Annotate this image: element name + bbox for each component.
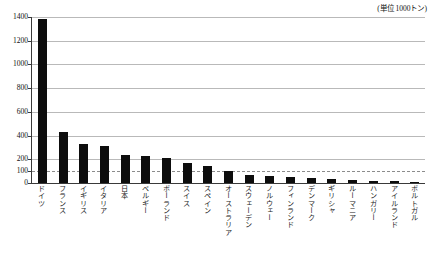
x-axis-label-slot: イタリア [93,185,114,251]
x-axis-label: 日本 [121,185,129,200]
x-axis-label-slot: ドイツ [31,185,52,251]
bar [265,176,274,183]
x-axis-label: スウェーデン [245,185,253,229]
x-axis-label-slot: スペイン [197,185,218,251]
x-axis-label: イタリア [100,185,108,214]
x-axis-label: イギリス [79,185,87,214]
x-axis-label-slot: アイルランド [383,185,404,251]
x-axis-label: デンマーク [307,185,315,222]
bar [141,156,150,183]
y-axis-tick-label: 1400 [13,13,28,21]
unit-caption: (単位 1000トン) [377,2,427,13]
y-axis-tick-label: 400 [17,132,28,140]
x-axis-label: ポルトガル [411,185,419,222]
x-axis-label-slot: ポーランド [155,185,176,251]
bar [162,158,171,183]
bar [327,179,336,183]
bar-slot [384,17,405,183]
bar [286,177,295,183]
bar-slot [280,17,301,183]
bar [369,181,378,183]
bar-slot [94,17,115,183]
bar-slot [156,17,177,183]
x-axis-label-slot: ベルギー [135,185,156,251]
bar-slot [239,17,260,183]
bar-slot [32,17,53,183]
x-axis-label: ルーマニア [349,185,357,222]
bar [348,180,357,183]
x-axis-label-slot: ルーマニア [342,185,363,251]
x-axis-label-slot: ギリシャ [321,185,342,251]
y-axis-tick-label: 1200 [13,37,28,45]
x-axis-label-slot: フランス [52,185,73,251]
bar-slot [363,17,384,183]
x-axis-label: フィンランド [286,185,294,229]
x-axis-label: ドイツ [38,185,46,207]
x-axis-label: ノルウェー [266,185,274,222]
y-axis-tick-label: 600 [17,108,28,116]
bar [203,166,212,183]
x-axis-label: ポーランド [162,185,170,222]
y-axis-tick-label: 100 [17,167,28,175]
x-axis-label-slot: ノルウェー [259,185,280,251]
x-axis-label: ハンガリー [369,185,377,222]
bar [121,155,130,183]
bar-slot [322,17,343,183]
bar-slot [115,17,136,183]
x-axis-label-slot: フィンランド [280,185,301,251]
bar [59,132,68,183]
y-axis-tick-mark [28,183,32,184]
bar-slot [198,17,219,183]
bar [183,163,192,183]
x-axis-label-slot: デンマーク [301,185,322,251]
bar-series [32,17,425,183]
x-axis-label: スペイン [203,185,211,214]
bar-slot [73,17,94,183]
x-axis-label-slot: スイス [176,185,197,251]
x-axis-labels: ドイツフランスイギリスイタリア日本ベルギーポーランドスイススペインオーストラリア… [31,185,425,251]
bar [100,146,109,183]
bar [79,144,88,183]
bar-chart-figure: (単位 1000トン) 0100200400600800100012001400… [0,0,431,253]
x-axis-label: スイス [183,185,191,207]
x-axis-label-slot: 日本 [114,185,135,251]
y-axis-tick-label: 800 [17,84,28,92]
x-axis-label: ベルギー [141,185,149,214]
bar [224,171,233,183]
y-axis-tick-label: 200 [17,156,28,164]
x-axis-label: フランス [58,185,66,214]
x-axis-label-slot: オーストラリア [218,185,239,251]
bar-slot [404,17,425,183]
x-axis-label-slot: ハンガリー [363,185,384,251]
bar-slot [53,17,74,183]
y-axis-tick-label: 1000 [13,61,28,69]
plot-area: 0100200400600800100012001400 [31,17,425,184]
x-axis-label: アイルランド [390,185,398,229]
bar [245,175,254,183]
x-axis-label: ギリシャ [328,185,336,214]
x-axis-label-slot: スウェーデン [238,185,259,251]
bar [38,19,47,183]
bar-slot [177,17,198,183]
bar-slot [135,17,156,183]
x-axis-label-slot: ポルトガル [404,185,425,251]
bar [390,181,399,183]
x-axis-label-slot: イギリス [72,185,93,251]
x-axis-label: オーストラリア [224,185,232,236]
bar [307,178,316,183]
bar-slot [301,17,322,183]
bar-slot [260,17,281,183]
bar [410,182,419,183]
bar-slot [218,17,239,183]
y-axis-tick-label: 0 [24,179,28,187]
bar-slot [342,17,363,183]
